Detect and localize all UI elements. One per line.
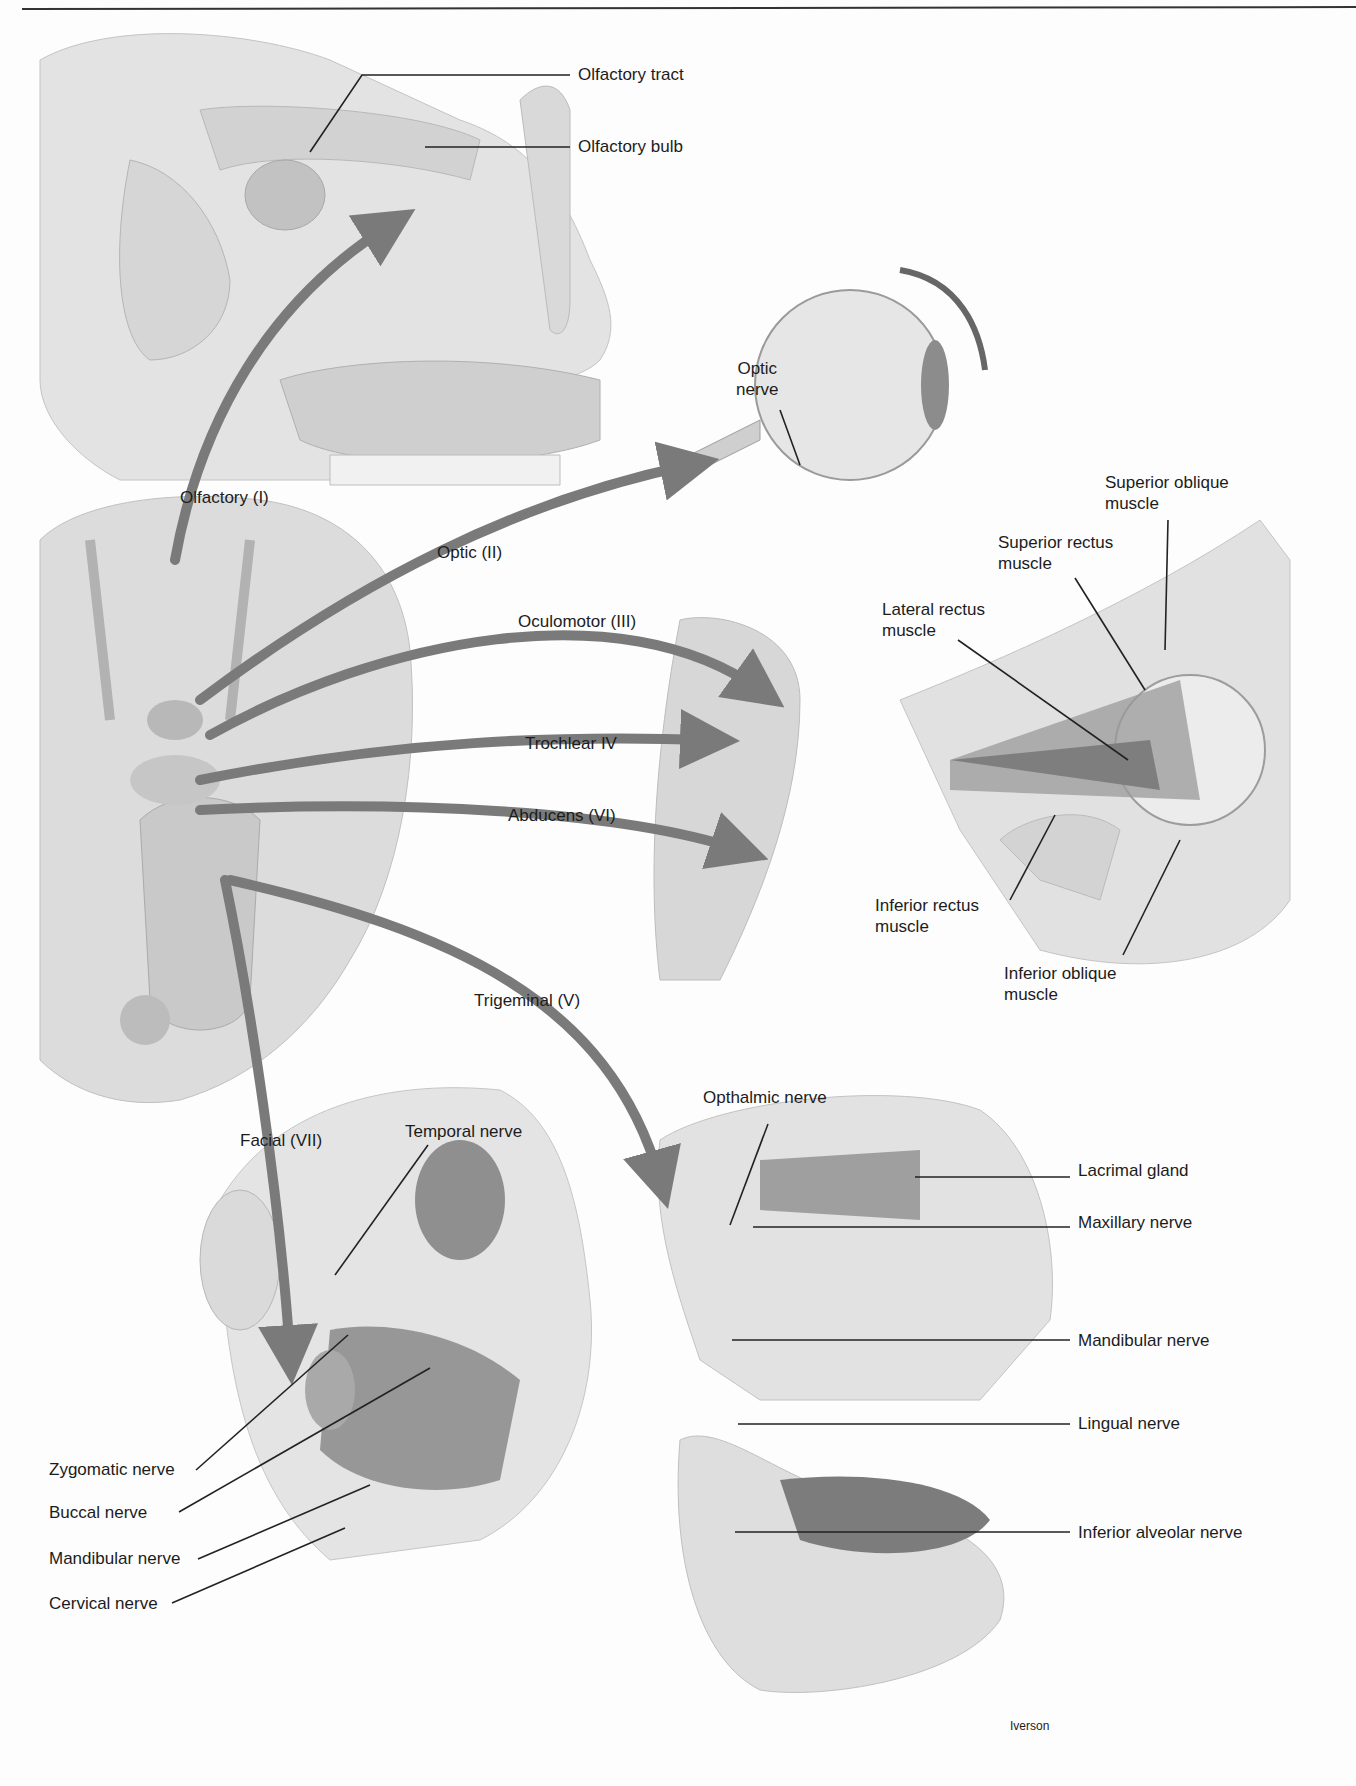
anatomy-illustration	[0, 0, 1356, 1786]
label-trigeminal-nerve: Trigeminal (V)	[474, 990, 580, 1011]
cranial-nerves-diagram: Olfactory tract Olfactory bulb Optic ner…	[0, 0, 1356, 1786]
label-olfactory-nerve: Olfactory (I)	[180, 487, 269, 508]
label-abducens-nerve: Abducens (VI)	[508, 805, 616, 826]
label-maxillary-nerve: Maxillary nerve	[1078, 1212, 1192, 1233]
label-lateral-rectus: Lateral rectus muscle	[882, 599, 985, 641]
label-opthalmic-nerve: Opthalmic nerve	[703, 1087, 827, 1108]
label-olfactory-tract: Olfactory tract	[578, 64, 684, 85]
face-muscles-illustration	[200, 1088, 592, 1560]
label-zygomatic-nerve: Zygomatic nerve	[49, 1459, 175, 1480]
label-inferior-alveolar-nerve: Inferior alveolar nerve	[1078, 1522, 1242, 1543]
label-superior-oblique: Superior oblique muscle	[1105, 472, 1229, 514]
label-skull-mandibular-nerve: Mandibular nerve	[1078, 1330, 1209, 1351]
label-superior-rectus: Superior rectus muscle	[998, 532, 1113, 574]
nasal-cavity-illustration	[40, 34, 611, 485]
brain-inferior-view-illustration	[40, 496, 413, 1102]
label-optic-nerve: Optic nerve	[736, 358, 779, 400]
label-temporal-nerve: Temporal nerve	[405, 1121, 522, 1142]
label-face-mandibular-nerve: Mandibular nerve	[49, 1548, 180, 1569]
skull-trigeminal-illustration	[658, 1096, 1052, 1693]
artist-signature: Iverson	[1010, 1716, 1049, 1737]
label-inferior-oblique: Inferior oblique muscle	[1004, 963, 1116, 1005]
label-oculomotor-nerve: Oculomotor (III)	[518, 611, 636, 632]
label-olfactory-bulb: Olfactory bulb	[578, 136, 683, 157]
label-lingual-nerve: Lingual nerve	[1078, 1413, 1180, 1434]
label-cervical-nerve: Cervical nerve	[49, 1593, 158, 1614]
label-facial-nerve: Facial (VII)	[240, 1130, 322, 1151]
label-inferior-rectus: Inferior rectus muscle	[875, 895, 979, 937]
label-optic-nerve-ii: Optic (II)	[437, 542, 502, 563]
label-buccal-nerve: Buccal nerve	[49, 1502, 147, 1523]
eyeball-illustration	[690, 270, 985, 480]
label-trochlear-nerve: Trochlear IV	[525, 733, 617, 754]
top-rule	[22, 7, 1356, 9]
label-lacrimal-gland: Lacrimal gland	[1078, 1160, 1189, 1181]
